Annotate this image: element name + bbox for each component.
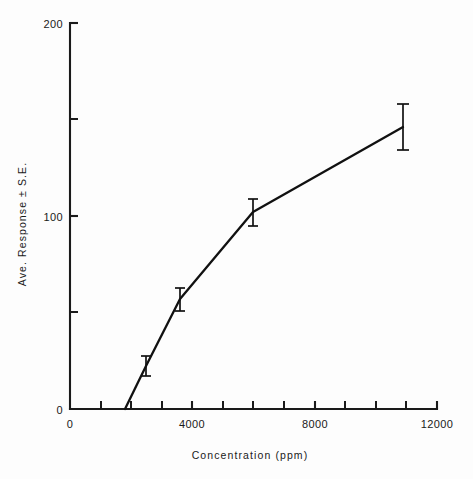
errorbar-point-4: [397, 104, 409, 150]
x-axis-label-8000: 8000: [302, 418, 328, 430]
y-axis-label-200: 200: [43, 18, 63, 30]
y-axis-title: Ave. Response ± S.E.: [16, 162, 28, 286]
x-axis-label-12000: 12000: [421, 418, 454, 430]
line-chart: 200 100 0 0 4000 8000 12000 Concentratio…: [0, 0, 473, 479]
response-curve: [125, 127, 403, 409]
y-axis-label-0: 0: [56, 404, 63, 416]
x-axis-title: Concentration (ppm): [192, 449, 309, 461]
x-axis-label-0: 0: [67, 418, 74, 430]
y-axis-label-100: 100: [43, 211, 63, 223]
chart-figure: 200 100 0 0 4000 8000 12000 Concentratio…: [0, 0, 473, 479]
x-axis-label-4000: 4000: [179, 418, 205, 430]
errorbar-point-3: [248, 199, 258, 226]
